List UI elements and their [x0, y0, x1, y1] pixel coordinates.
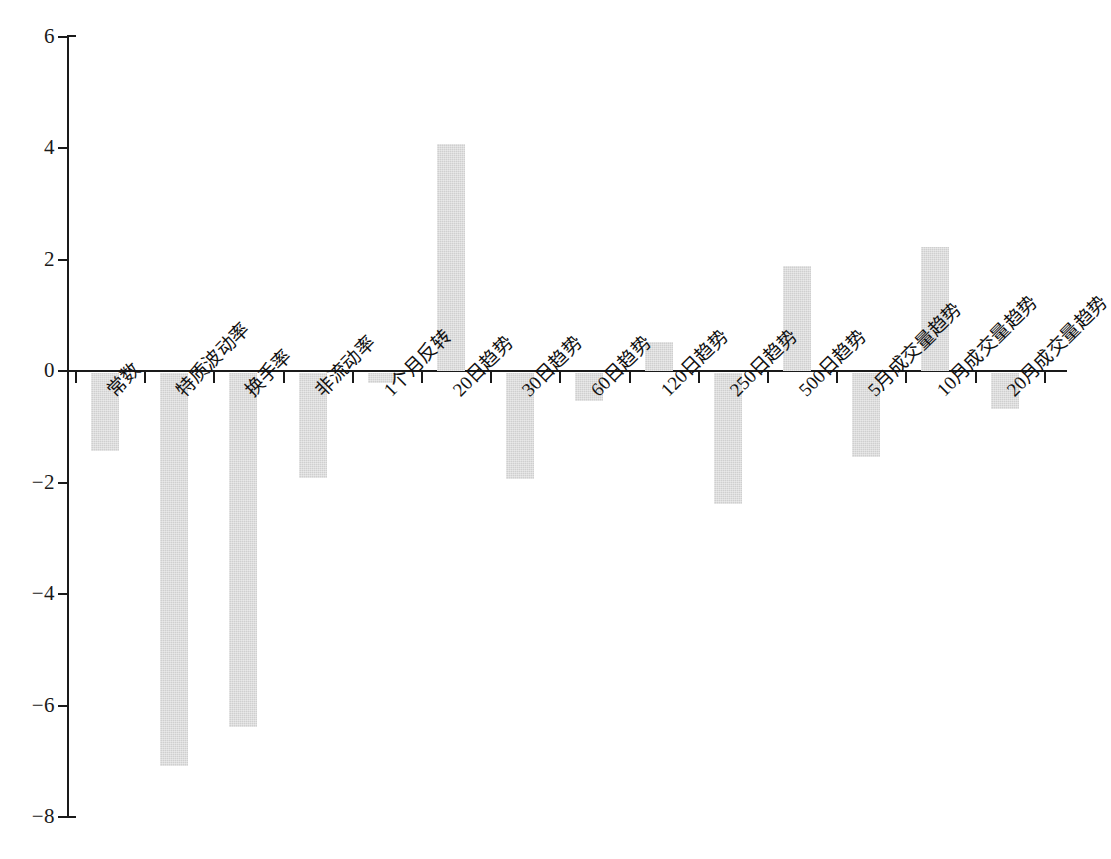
y-axis-tick — [58, 482, 68, 484]
y-axis-tick — [58, 259, 68, 261]
bar — [160, 373, 188, 766]
y-axis-tick — [58, 593, 68, 595]
y-axis-tick — [58, 36, 68, 38]
y-axis-tick-label: 6 — [44, 24, 55, 49]
y-axis-top-cap — [67, 35, 76, 37]
y-axis-tick-label: −8 — [32, 804, 55, 829]
bar — [783, 266, 811, 371]
y-axis-tick-label: −6 — [32, 693, 55, 718]
y-axis-tick-label: −4 — [32, 581, 55, 606]
x-axis-category-label: 非流动率 — [307, 328, 380, 401]
y-axis-tick-label: 0 — [44, 358, 55, 383]
y-axis-tick-label: −2 — [32, 470, 55, 495]
y-axis-spine — [67, 35, 69, 818]
y-axis-tick — [58, 147, 68, 149]
y-axis-tick-label: 2 — [44, 247, 55, 272]
y-axis-bottom-cap — [67, 816, 76, 818]
y-axis-tick — [58, 816, 68, 818]
y-axis-tick — [58, 370, 68, 372]
y-axis-tick — [58, 705, 68, 707]
x-axis-tick — [75, 372, 77, 383]
bar — [229, 373, 257, 727]
y-axis-tick-label: 4 — [44, 135, 55, 160]
